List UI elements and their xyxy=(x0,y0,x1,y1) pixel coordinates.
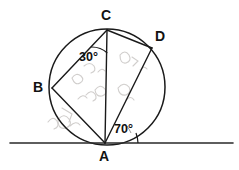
vertex-label-b: B xyxy=(33,80,43,94)
chord-ca xyxy=(105,30,107,143)
angle-arc-a xyxy=(136,133,138,143)
chord-cd xyxy=(107,30,152,48)
geometry-figure: C D B A 30° 70° xyxy=(0,0,239,170)
vertex-label-a: A xyxy=(99,149,109,163)
angle-label-30: 30° xyxy=(79,51,98,64)
chord-ba xyxy=(52,88,105,143)
vertex-label-c: C xyxy=(101,8,111,22)
vertex-label-d: D xyxy=(155,29,165,43)
angle-label-70: 70° xyxy=(114,123,133,136)
